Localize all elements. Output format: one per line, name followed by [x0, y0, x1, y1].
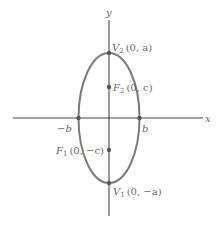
neg-b-point — [76, 116, 80, 120]
focus-f1-point — [107, 148, 111, 152]
vertex-v1-point — [107, 181, 111, 185]
x-axis-label: x — [205, 113, 211, 124]
f1-sub: 1 — [63, 150, 67, 158]
v2-label: V2(0, a) — [112, 42, 152, 55]
v1-sub: 1 — [120, 191, 124, 199]
f1-label: F1(0, −c) — [55, 145, 104, 158]
v2-sub: 2 — [119, 47, 123, 55]
vertex-v2-point — [107, 51, 111, 55]
f2-label: F2(0, c) — [112, 82, 153, 95]
pos-b-point — [137, 116, 141, 120]
ellipse-diagram: y x V2(0, a) F2(0, c) −b b F1(0, −c) V1(… — [0, 0, 223, 226]
y-axis-label: y — [105, 7, 112, 18]
f2-coords: (0, c) — [126, 82, 152, 93]
v2-coords: (0, a) — [126, 42, 153, 53]
v1-coords: (0, −a) — [127, 186, 162, 197]
f2-sub: 2 — [120, 87, 124, 95]
v1-label: V1(0, −a) — [113, 186, 162, 199]
neg-b-label: −b — [57, 123, 72, 134]
pos-b-label: b — [142, 123, 148, 134]
f1-coords: (0, −c) — [69, 145, 104, 156]
focus-f2-point — [107, 85, 111, 89]
